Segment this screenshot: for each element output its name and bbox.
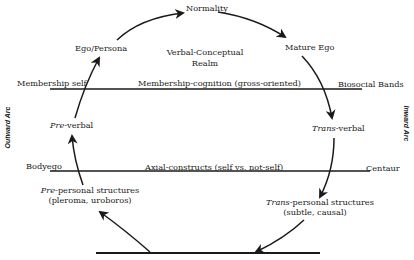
realm-label-line2: Realm xyxy=(150,59,260,67)
suffix: -personal structures xyxy=(55,185,139,195)
node-mature-ego: Mature Ego xyxy=(285,43,334,51)
realm-label-line1: Verbal-Conceptual xyxy=(150,48,260,56)
label-bodyego: Bodyego xyxy=(26,162,62,170)
prefix: Pre xyxy=(50,120,64,130)
prefix: Trans xyxy=(312,123,336,133)
node-trans-personal-sub: (subtle, causal) xyxy=(260,208,370,216)
suffix: -personal structures xyxy=(290,197,374,207)
arrow-ego-to-normality xyxy=(117,13,183,40)
label-centaur: Centaur xyxy=(366,164,400,172)
prefix: Trans xyxy=(266,197,290,207)
node-pre-verbal: Pre-verbal xyxy=(50,121,93,129)
label-axial-constructs: Axial-constructs (self vs. not-self) xyxy=(145,163,283,171)
arrow-prepersonal-to-preverbal xyxy=(72,136,83,185)
arrow-transpersonal-to-base xyxy=(256,220,304,252)
side-label-outward-arc: Outward Arc xyxy=(4,103,11,153)
arrow-transverbal-to-transpersonal xyxy=(320,138,334,197)
node-ego-persona: Ego/Persona xyxy=(75,44,127,52)
arrow-preverbal-to-ego xyxy=(75,58,99,118)
node-trans-verbal: Trans-verbal xyxy=(312,124,365,132)
arrow-normality-to-mature xyxy=(218,12,285,37)
node-pre-personal: Pre-personal structures xyxy=(40,186,140,194)
prefix: Pre xyxy=(41,185,55,195)
node-normality: Normality xyxy=(186,4,228,12)
arrow-mature-to-transverbal xyxy=(302,56,332,118)
node-trans-personal: Trans-personal structures xyxy=(265,198,375,206)
side-label-inward-arc: Inward Arc xyxy=(403,99,410,149)
node-pre-personal-sub: (pleroma, uroboros) xyxy=(40,196,140,204)
arrow-base-to-prepersonal xyxy=(100,212,150,252)
label-membership-cognition: Membership-cognition (gross-oriented) xyxy=(138,79,301,87)
suffix: -verbal xyxy=(64,120,93,130)
label-membership-self: Membership self xyxy=(17,79,87,87)
label-biosocial-bands: Biosocial Bands xyxy=(338,80,404,88)
suffix: -verbal xyxy=(336,123,365,133)
